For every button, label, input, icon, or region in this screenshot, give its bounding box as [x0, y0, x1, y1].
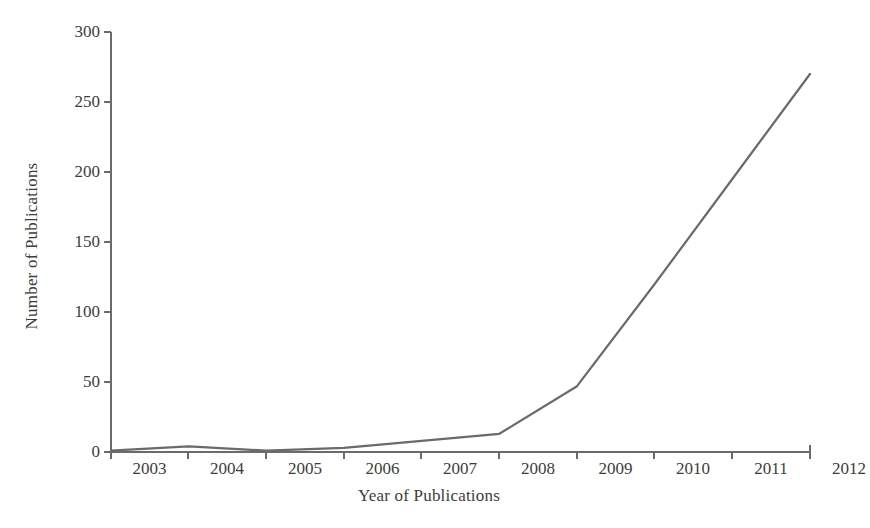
x-tick-label-2010: 2010 — [654, 459, 732, 479]
x-tick-label-2009: 2009 — [577, 459, 654, 479]
x-axis-title: Year of Publications — [0, 486, 858, 506]
x-tick-label-2006: 2006 — [344, 459, 421, 479]
x-tick-label-2003: 2003 — [111, 459, 188, 479]
y-tick-label-50: 50 — [48, 372, 100, 392]
x-tick-label-2008: 2008 — [499, 459, 577, 479]
x-tick-label-2007: 2007 — [421, 459, 499, 479]
x-tick-label-2011: 2011 — [732, 459, 810, 479]
y-tick-label-300: 300 — [48, 22, 100, 42]
x-tick-label-2012: 2012 — [810, 459, 870, 479]
y-tick-label-150: 150 — [48, 232, 100, 252]
x-tick-label-2005: 2005 — [266, 459, 344, 479]
y-tick-label-250: 250 — [48, 92, 100, 112]
y-tick-label-200: 200 — [48, 162, 100, 182]
y-tick-label-100: 100 — [48, 302, 100, 322]
y-axis-title: Number of Publications — [22, 36, 42, 456]
x-tick-label-2004: 2004 — [188, 459, 266, 479]
y-tick-label-0: 0 — [48, 442, 100, 462]
